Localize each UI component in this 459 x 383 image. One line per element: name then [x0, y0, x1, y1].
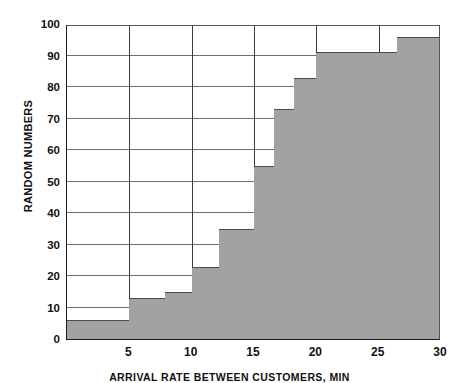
x-tick-25: 25 [361, 346, 395, 358]
x-axis-title: ARRIVAL RATE BETWEEN CUSTOMERS, MIN [0, 371, 459, 383]
step-bar [165, 292, 191, 339]
step-bar [254, 166, 274, 339]
step-bar [397, 37, 440, 339]
y-tick-0: 0 [24, 334, 60, 346]
y-tick-20: 20 [24, 271, 60, 283]
y-tick-90: 90 [24, 51, 60, 63]
y-tick-40: 40 [24, 208, 60, 220]
step-bar [129, 298, 165, 339]
step-bar [192, 267, 219, 339]
y-tick-80: 80 [24, 82, 60, 94]
x-tick-20: 20 [298, 346, 332, 358]
x-tick-5: 5 [111, 346, 145, 358]
step-bar [316, 52, 397, 339]
step-bar [294, 78, 316, 339]
y-tick-70: 70 [24, 114, 60, 126]
y-tick-100: 100 [24, 19, 60, 31]
step-bar [67, 320, 129, 339]
y-tick-10: 10 [24, 303, 60, 315]
y-tick-50: 50 [24, 177, 60, 189]
x-tick-30: 30 [423, 346, 457, 358]
step-series [67, 26, 439, 339]
step-bar [274, 109, 294, 339]
x-tick-10: 10 [174, 346, 208, 358]
x-tick-15: 15 [236, 346, 270, 358]
plot-area [66, 25, 440, 340]
step-bar [219, 229, 254, 339]
y-tick-60: 60 [24, 145, 60, 157]
y-tick-30: 30 [24, 240, 60, 252]
